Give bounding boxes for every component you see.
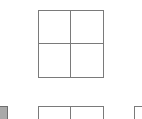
grid-2x2-tile-bottom[interactable] [38, 106, 104, 119]
layout-picker [0, 0, 142, 119]
grid-2x2-tile-top[interactable] [38, 10, 104, 78]
single-tile-bottom-right[interactable] [134, 106, 142, 119]
grid-divider-horizontal [39, 43, 103, 44]
grid-divider-vertical [70, 11, 71, 77]
grid-divider-vertical [70, 107, 71, 119]
filled-tile-bottom-left[interactable] [0, 106, 8, 119]
